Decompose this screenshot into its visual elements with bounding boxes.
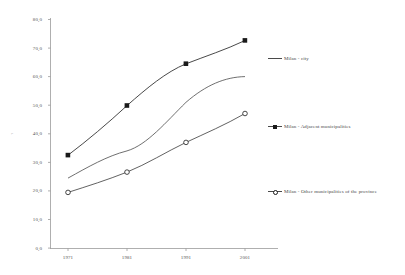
- series-line-adjacent-municipalities: [68, 41, 245, 156]
- y-tick-label: 50,0: [16, 103, 42, 108]
- data-point-marker: [184, 140, 189, 145]
- data-point-marker: [125, 103, 130, 108]
- x-tick-label: 1991: [171, 255, 201, 260]
- data-point-marker: [184, 61, 189, 66]
- legend-item-label: Milan - city: [284, 56, 309, 62]
- legend-square-marker-icon: [268, 123, 282, 130]
- y-tick-label: 40,0: [16, 131, 42, 136]
- legend-circle-marker-icon: [268, 188, 282, 195]
- x-tick-label: 2001: [230, 255, 260, 260]
- legend-line-icon: [268, 55, 282, 62]
- y-tick-label: 70,0: [16, 46, 42, 51]
- x-tick-label: 1981: [112, 255, 142, 260]
- legend-item-adjacent-municipalities[interactable]: Milan - Adjacent municipalities: [268, 123, 351, 130]
- legend-item-label: Milan - Adjacent municipalities: [284, 124, 351, 130]
- data-point-marker: [66, 190, 71, 195]
- series-markers-other-municipalities: [66, 111, 248, 195]
- legend-item-other-municipalities[interactable]: Milan - Other municipalities of the prov…: [268, 188, 377, 195]
- y-tick-label: 10,0: [16, 217, 42, 222]
- y-tick-label: 80,0: [16, 17, 42, 22]
- y-tick-label: 60,0: [16, 74, 42, 79]
- y-tick-label: 30,0: [16, 160, 42, 165]
- y-tick-label: 20,0: [16, 188, 42, 193]
- data-point-marker: [125, 170, 130, 175]
- series-markers-adjacent-municipalities: [66, 38, 248, 157]
- data-point-marker: [243, 111, 248, 116]
- x-tick-label: 1971: [53, 255, 83, 260]
- series-line-other-municipalities: [68, 114, 245, 193]
- data-point-marker: [243, 38, 248, 43]
- data-point-marker: [66, 153, 71, 158]
- line-chart: 80,0 70,0 60,0 50,0 40,0 30,0 20,0 10,0 …: [0, 0, 405, 275]
- y-tick-label: 0,0: [16, 246, 42, 251]
- legend-item-milan-city[interactable]: Milan - city: [268, 55, 309, 62]
- axis-stray-mark: ⌐: [11, 131, 13, 136]
- chart-canvas: [0, 0, 405, 275]
- legend-item-label: Milan - Other municipalities of the prov…: [284, 189, 377, 195]
